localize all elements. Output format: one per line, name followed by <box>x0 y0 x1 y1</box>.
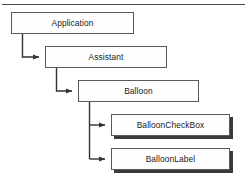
node-application-label: Application <box>51 19 93 27</box>
connector-assistant-to-balloon <box>57 68 73 91</box>
node-balloon-check-box-label: BalloonCheckBox <box>137 121 205 129</box>
node-assistant-label: Assistant <box>89 53 124 61</box>
node-balloon-label-label: BalloonLabel <box>146 155 196 163</box>
node-assistant[interactable]: Assistant <box>45 46 167 68</box>
connector-balloon-to-checkbox <box>90 102 106 159</box>
node-application[interactable]: Application <box>11 12 134 34</box>
hierarchy-diagram: Application Assistant Balloon BalloonChe… <box>0 0 247 184</box>
node-balloon-label: Balloon <box>124 87 153 95</box>
node-balloon[interactable]: Balloon <box>78 80 199 102</box>
node-balloon-label[interactable]: BalloonLabel <box>111 148 230 170</box>
node-balloon-check-box[interactable]: BalloonCheckBox <box>111 114 230 136</box>
connector-application-to-assistant <box>23 34 40 57</box>
